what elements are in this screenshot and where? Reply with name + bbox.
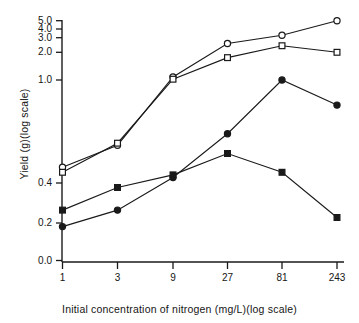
y-axis-tick-label: 2.0 — [18, 46, 52, 57]
data-point-filled-circle — [114, 207, 120, 213]
data-point-filled-square — [279, 169, 285, 175]
series-line-open-square — [63, 46, 338, 173]
data-point-open-circle — [224, 40, 230, 46]
data-point-open-square — [225, 55, 231, 61]
data-point-filled-square — [225, 151, 231, 157]
y-axis-tick-label: 1.0 — [18, 74, 52, 85]
series-line-open-circle — [63, 21, 338, 168]
axes — [62, 20, 344, 262]
data-point-filled-circle — [334, 102, 340, 108]
x-axis-tick-label: 3 — [98, 272, 138, 283]
data-point-open-circle — [334, 18, 340, 24]
x-axis-title: Initial concentration of nitrogen (mg/L)… — [0, 303, 359, 315]
x-axis-tick-label: 1 — [43, 272, 83, 283]
y-axis-tick-label: 0.0 — [18, 255, 52, 266]
data-point-open-square — [279, 43, 285, 49]
data-point-filled-circle — [224, 131, 230, 137]
x-axis-tick-label: 27 — [208, 272, 248, 283]
x-axis-tick-label: 9 — [153, 272, 193, 283]
y-axis-tick-label: 0.4 — [18, 177, 52, 188]
series-line-filled-square — [63, 154, 338, 218]
series-line-filled-circle — [63, 80, 338, 227]
data-point-open-square — [115, 140, 121, 146]
data-point-open-square — [334, 49, 340, 55]
data-series-group — [59, 18, 340, 230]
x-axis-tick-label: 81 — [262, 272, 302, 283]
data-point-open-square — [170, 76, 176, 82]
data-point-filled-square — [60, 207, 66, 213]
x-axis-ticks — [63, 262, 338, 269]
y-axis-tick-label: 5.0 — [18, 15, 52, 26]
data-point-open-square — [60, 169, 66, 175]
y-axis-tick-label: 0.2 — [18, 217, 52, 228]
data-point-filled-circle — [59, 224, 65, 230]
data-point-filled-square — [115, 185, 121, 191]
data-point-filled-square — [170, 172, 176, 178]
data-point-open-circle — [279, 32, 285, 38]
data-point-filled-square — [334, 215, 340, 221]
x-axis-tick-label: 243 — [317, 272, 357, 283]
data-point-filled-circle — [279, 77, 285, 83]
chart-figure: Yield (g)(log scale) Initial concentrati… — [0, 0, 359, 323]
